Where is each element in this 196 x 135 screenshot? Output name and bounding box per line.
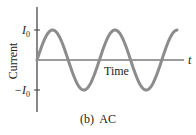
y-tick-label-negative: −I0: [14, 83, 30, 99]
y-axis-label: Current: [6, 42, 20, 79]
x-axis-end-symbol: t: [188, 53, 192, 67]
y-tick-label-positive: I0: [21, 23, 30, 39]
ac-current-diagram: I0 −I0 Current Time t (b) AC: [0, 0, 196, 135]
x-axis-label: Time: [104, 64, 129, 78]
figure-caption: (b) AC: [80, 112, 116, 126]
